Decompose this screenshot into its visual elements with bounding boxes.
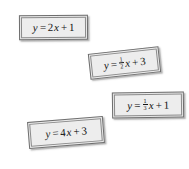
- equation-3-equals: =: [133, 100, 143, 111]
- equation-3-slope-fraction: 1 3: [143, 98, 148, 112]
- equation-card-1-inner: y = 2 x + 1: [21, 17, 86, 38]
- equation-1-intercept: 1: [69, 22, 75, 33]
- equation-expression-3: y = 1 3 x + 1: [127, 98, 170, 112]
- equation-1-plus: +: [60, 22, 69, 33]
- equation-2-intercept: 3: [139, 55, 146, 67]
- equation-2-slope-denominator: 2: [120, 63, 125, 70]
- equation-card-2-inner: y = 1 2 x + 3: [90, 48, 159, 77]
- equation-3-plus: +: [154, 99, 164, 110]
- equation-2-equals: =: [109, 58, 120, 70]
- equation-card-1[interactable]: y = 2 x + 1: [19, 15, 88, 40]
- equation-cards-canvas: y = 2 x + 1 y = 1 2 x + 3: [0, 0, 189, 169]
- equation-card-4[interactable]: y = 4 x + 3: [27, 116, 105, 149]
- equation-card-3-inner: y = 1 3 x + 1: [114, 94, 182, 117]
- equation-card-2[interactable]: y = 1 2 x + 3: [88, 46, 161, 80]
- equation-4-intercept: 3: [81, 125, 88, 136]
- equation-expression-2: y = 1 2 x + 3: [103, 54, 147, 72]
- equation-card-4-inner: y = 4 x + 3: [29, 118, 103, 147]
- equation-3-intercept: 1: [164, 99, 170, 110]
- equation-card-3[interactable]: y = 1 3 x + 1: [112, 91, 184, 118]
- equation-expression-4: y = 4 x + 3: [44, 125, 87, 139]
- equation-expression-1: y = 2 x + 1: [32, 22, 74, 33]
- equation-1-equals: =: [38, 22, 47, 33]
- equation-3-slope-denominator: 3: [143, 105, 147, 111]
